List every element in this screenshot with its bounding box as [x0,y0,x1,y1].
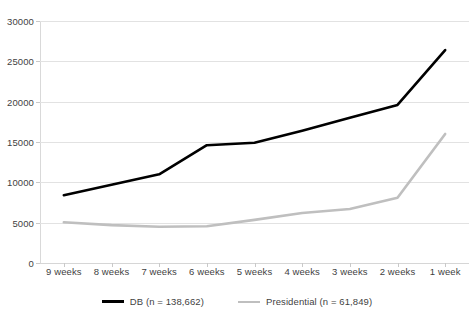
x-axis-tick-label: 8 weeks [94,266,130,277]
x-axis-labels: 9 weeks8 weeks7 weeks6 weeks5 weeks4 wee… [40,266,469,282]
y-axis-tick-label: 15000 [7,137,34,148]
thick-line-swatch [102,300,124,303]
legend-label: DB (n = 138,662) [130,296,204,307]
x-axis-tick-label: 7 weeks [141,266,177,277]
legend-item[interactable]: DB (n = 138,662) [102,296,204,307]
x-axis-tick-label: 2 weeks [380,266,416,277]
y-axis-labels: 050001000015000200002500030000 [0,21,34,263]
y-axis-tick-label: 0 [29,258,34,269]
x-axis-tick-label: 1 week [430,266,461,277]
x-axis-tick-label: 3 weeks [332,266,368,277]
chart-legend: DB (n = 138,662)Presidential (n = 61,849… [0,296,474,307]
x-axis-tick-label: 5 weeks [237,266,273,277]
y-axis-tick-label: 5000 [12,217,34,228]
x-axis-tick-label: 6 weeks [189,266,225,277]
y-axis-tick-label: 20000 [7,96,34,107]
line-chart: 050001000015000200002500030000 9 weeks8 … [0,0,474,323]
legend-label: Presidential (n = 61,849) [266,296,372,307]
y-tick-mark [36,263,40,264]
series-lines [40,21,469,263]
y-axis-tick-label: 25000 [7,56,34,67]
legend-item[interactable]: Presidential (n = 61,849) [238,296,372,307]
y-axis-tick-label: 30000 [7,16,34,27]
y-axis-tick-label: 10000 [7,177,34,188]
thin-line-swatch [238,301,260,303]
plot-area [40,21,469,263]
series-line [64,50,445,195]
series-line [64,134,445,227]
x-axis-tick-label: 9 weeks [46,266,82,277]
x-axis-tick-label: 4 weeks [284,266,320,277]
